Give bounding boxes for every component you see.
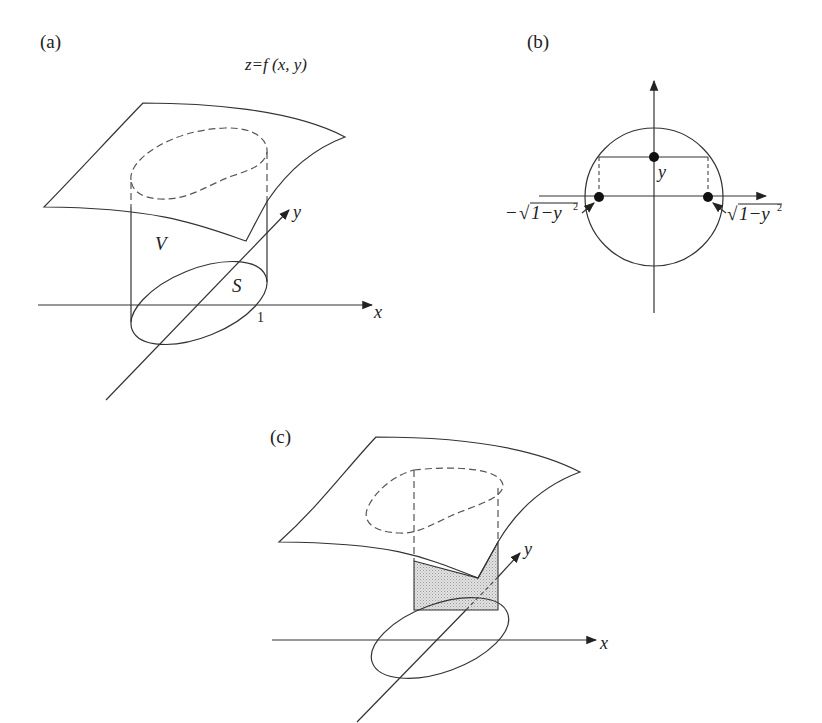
panel-c: (c) x y xyxy=(270,426,608,722)
c-surface-boundary-curve xyxy=(366,468,503,533)
panel-b: (b) y − √ 1−y 2 √ 1−y xyxy=(506,31,782,313)
surface-boundary-curve xyxy=(131,128,267,199)
panel-c-label: (c) xyxy=(270,426,291,448)
figure-canvas: (a) z=f (x, y) V S 1 x y (b) xyxy=(0,0,822,723)
surface-label: z=f (x, y) xyxy=(244,55,307,74)
svg-text:−: − xyxy=(506,202,517,223)
svg-text:√: √ xyxy=(727,203,738,224)
svg-text:2: 2 xyxy=(573,201,578,212)
point-right-bound xyxy=(703,192,713,202)
svg-text:2: 2 xyxy=(777,202,782,213)
tick-label-1: 1 xyxy=(257,310,264,325)
point-left-bound xyxy=(594,192,604,202)
c-y-axis-label: y xyxy=(522,539,532,559)
panel-a-label: (a) xyxy=(40,31,61,53)
c-x-axis-label: x xyxy=(599,633,608,653)
region-label: S xyxy=(232,275,242,296)
panel-b-label: (b) xyxy=(527,31,549,53)
volume-label: V xyxy=(155,233,169,254)
c-y-axis-tip xyxy=(498,553,520,577)
svg-text:√: √ xyxy=(519,202,530,223)
svg-text:1−y: 1−y xyxy=(531,202,562,223)
right-bound-label: √ 1−y 2 xyxy=(727,202,782,224)
left-bound-label: − √ 1−y 2 xyxy=(506,201,578,223)
cross-section-slice xyxy=(414,542,498,610)
point-y-label: y xyxy=(656,162,666,182)
right-label-pointer xyxy=(713,203,726,213)
panel-a: (a) z=f (x, y) V S 1 x y xyxy=(38,31,382,400)
x-axis-label: x xyxy=(373,302,382,322)
svg-text:1−y: 1−y xyxy=(739,203,770,224)
left-label-pointer xyxy=(582,203,594,213)
c-surface-outline xyxy=(279,437,580,578)
y-axis-label: y xyxy=(291,202,301,222)
point-y xyxy=(649,152,659,162)
